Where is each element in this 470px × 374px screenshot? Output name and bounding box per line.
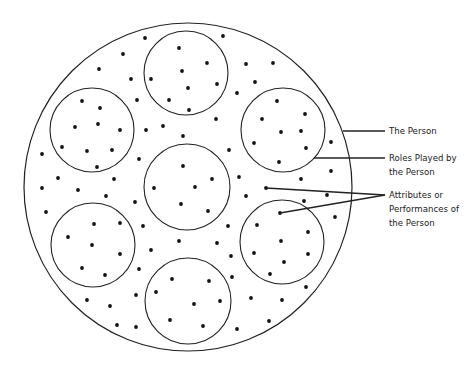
- role-top-circle: [144, 31, 228, 115]
- attribute-dot: [149, 248, 153, 252]
- attribute-dot: [66, 235, 70, 239]
- attribute-dot: [118, 221, 122, 225]
- label-roles-line2: the Person: [389, 165, 457, 179]
- attribute-dot: [207, 279, 211, 283]
- label-the-person: The Person: [389, 124, 437, 138]
- attribute-dot: [215, 241, 219, 245]
- outer-circle-person: [24, 23, 352, 351]
- attribute-dot: [279, 239, 283, 243]
- attribute-dot: [282, 260, 286, 264]
- attribute-dot: [134, 325, 138, 329]
- attribute-dot: [306, 252, 310, 256]
- attribute-dot: [268, 272, 272, 276]
- attribute-dot: [76, 188, 80, 192]
- attribute-dot: [152, 186, 156, 190]
- attribute-dot: [181, 134, 185, 138]
- attribute-dot: [129, 77, 133, 81]
- attribute-dot: [303, 112, 307, 116]
- attribute-dot: [143, 36, 147, 40]
- attribute-dot: [121, 52, 125, 56]
- attribute-dot: [280, 298, 284, 302]
- attribute-dot: [333, 215, 337, 219]
- attribute-dot: [226, 224, 230, 228]
- attribute-dot: [168, 318, 172, 322]
- attribute-dot: [255, 223, 259, 227]
- attribute-dot: [108, 304, 112, 308]
- attribute-dot: [186, 86, 190, 90]
- attribute-dot: [180, 69, 184, 73]
- attribute-dot: [260, 117, 264, 121]
- attribute-dot: [252, 141, 256, 145]
- role-center-circle: [144, 144, 230, 230]
- attribute-dot: [235, 91, 239, 95]
- label-roles: Roles Played by the Person: [389, 151, 457, 179]
- attribute-dot: [80, 266, 84, 270]
- attribute-dot: [60, 145, 64, 149]
- attribute-dot: [253, 80, 257, 84]
- attribute-dot: [85, 298, 89, 302]
- attribute-dot: [329, 169, 333, 173]
- attribute-dot: [85, 149, 89, 153]
- attribute-dot: [193, 185, 197, 189]
- attribute-dot: [149, 77, 153, 81]
- attribute-dot: [227, 148, 231, 152]
- attribute-dot: [302, 199, 306, 203]
- attribute-dot: [271, 61, 275, 65]
- attribute-dot: [304, 146, 308, 150]
- attribute-dot: [90, 243, 94, 247]
- role-upper-right-circle: [241, 88, 325, 172]
- attribute-dot: [237, 175, 241, 179]
- attribute-dot: [133, 200, 137, 204]
- attribute-dot: [112, 177, 116, 181]
- attribute-dot: [244, 194, 248, 198]
- attribute-dot: [73, 125, 77, 129]
- attribute-dot: [56, 176, 60, 180]
- attribute-dot: [299, 177, 303, 181]
- attribute-dot: [252, 251, 256, 255]
- attribute-dot: [44, 210, 48, 214]
- attribute-dot: [235, 327, 239, 331]
- label-attributes-line2: Performances of: [389, 202, 459, 216]
- attribute-dot: [329, 140, 333, 144]
- attribute-dot: [144, 128, 148, 132]
- attribute-dot: [40, 186, 44, 190]
- attribute-dot: [115, 323, 119, 327]
- attribute-dot: [177, 46, 181, 50]
- attribute-dot: [137, 157, 141, 161]
- attribute-dot: [249, 296, 253, 300]
- attribute-dot: [306, 230, 310, 234]
- attribute-dot: [95, 165, 99, 169]
- label-attributes-line3: the Person: [389, 216, 459, 230]
- attribute-dot: [205, 61, 209, 65]
- attribute-dot: [135, 98, 139, 102]
- attribute-dot: [244, 62, 248, 66]
- attribute-dot: [304, 285, 308, 289]
- attribute-dot: [118, 252, 122, 256]
- attribute-dot: [161, 124, 165, 128]
- attribute-dot: [134, 293, 138, 297]
- attribute-dot: [110, 148, 114, 152]
- attribute-leader-2: [280, 195, 385, 213]
- outer-circle: [24, 23, 352, 351]
- attribute-dot: [192, 302, 196, 306]
- label-roles-line1: Roles Played by: [389, 151, 457, 165]
- attribute-dot: [179, 202, 183, 206]
- attribute-dot: [177, 239, 181, 243]
- attribute-dot: [275, 99, 279, 103]
- label-attributes: Attributes or Performances of the Person: [389, 188, 459, 230]
- attribute-dot: [325, 193, 329, 197]
- attribute-dot: [299, 129, 303, 133]
- attribute-dot: [206, 209, 210, 213]
- attribute-dot: [141, 224, 145, 228]
- attribute-dot: [230, 275, 234, 279]
- attribute-dot: [277, 160, 281, 164]
- attribute-dot: [218, 299, 222, 303]
- attribute-dot: [98, 106, 102, 110]
- attribute-dot: [104, 194, 108, 198]
- label-the-person-text: The Person: [389, 126, 437, 136]
- attribute-dot: [210, 177, 214, 181]
- attribute-dot: [167, 98, 171, 102]
- attribute-dot: [92, 222, 96, 226]
- attribute-dot: [279, 130, 283, 134]
- person-roles-diagram: [0, 0, 470, 374]
